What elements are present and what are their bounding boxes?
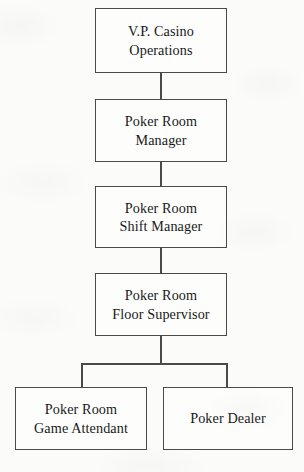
node-poker-room-game-attendant: Poker Room Game Attendant [15, 387, 147, 450]
node-poker-room-floor-supervisor: Poker Room Floor Supervisor [95, 273, 227, 336]
node-poker-dealer: Poker Dealer [163, 387, 293, 450]
node-label-poker-room-shift-manager: Poker Room Shift Manager [116, 199, 207, 235]
node-poker-room-shift-manager: Poker Room Shift Manager [95, 186, 227, 248]
connector-drop-game-attendant [81, 363, 83, 388]
org-chart: V.P. Casino Operations Poker Room Manage… [0, 0, 304, 472]
node-label-poker-room-manager: Poker Room Manager [121, 112, 201, 148]
node-vp-casino-operations: V.P. Casino Operations [95, 8, 227, 73]
connector-branch-bar [81, 363, 227, 365]
connector-shift-manager-to-floor-supervisor [160, 248, 162, 273]
connector-floor-supervisor-trunk [160, 336, 162, 364]
node-poker-room-manager: Poker Room Manager [95, 99, 227, 162]
node-label-vp-casino-operations: V.P. Casino Operations [124, 22, 198, 58]
connector-manager-to-shift-manager [160, 162, 162, 186]
connector-vp-to-manager [160, 73, 162, 99]
node-label-poker-room-floor-supervisor: Poker Room Floor Supervisor [108, 286, 213, 322]
connector-drop-poker-dealer [226, 363, 228, 388]
node-label-poker-dealer: Poker Dealer [186, 409, 270, 427]
node-label-poker-room-game-attendant: Poker Room Game Attendant [30, 400, 132, 436]
